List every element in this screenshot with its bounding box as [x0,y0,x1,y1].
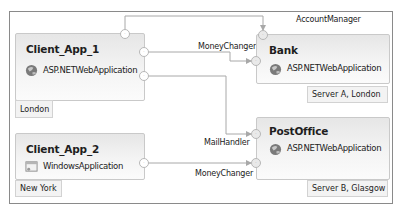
port-postoffice-moneychanger[interactable]: · [251,158,261,168]
node-title: PostOffice [269,125,328,137]
node-postoffice[interactable]: PostOffice ASP.NETWebApplication [256,117,390,180]
node-title: Bank [269,44,298,56]
node-title: Client_App_1 [26,43,99,55]
node-type: ASP.NETWebApplication [287,63,381,73]
edge-accountmanager [125,16,263,34]
globe-icon [269,143,282,156]
port-client-app-1-mailhandler[interactable]: · [139,71,149,81]
edge-label-mailhandler[interactable]: MailHandler [204,138,250,147]
node-client-app-2[interactable]: Client_App_2 WindowsApplication [15,133,145,180]
node-bank[interactable]: Bank ASP.NETWebApplication [256,34,390,84]
globe-icon [25,64,38,77]
location-tag-server-b: Server B, Glasgow [307,180,388,197]
node-type: ASP.NETWebApplication [287,143,381,153]
node-type: WindowsApplication [43,161,123,171]
globe-icon [269,63,282,76]
port-bank-moneychanger[interactable]: · [251,56,261,66]
port-postoffice-mailhandler[interactable]: · [251,129,261,139]
port-bank-accountmanager[interactable]: · [258,30,268,40]
port-client-app-1-accountmanager[interactable]: · [120,29,130,39]
location-tag-server-a: Server A, London [307,86,388,103]
node-title: Client_App_2 [26,143,99,155]
port-client-app-2-moneychanger[interactable]: · [139,158,149,168]
node-client-app-1[interactable]: Client_App_1 ASP.NETWebApplication [15,33,145,101]
location-tag-london: London [15,100,53,118]
edge-mailhandler [148,76,251,134]
node-type: ASP.NETWebApplication [43,65,137,75]
window-app-icon [25,160,38,173]
port-client-app-1-moneychanger[interactable]: · [139,47,149,57]
edge-label-moneychanger-1[interactable]: MoneyChanger [198,42,256,51]
edge-moneychanger-1 [148,52,251,61]
location-tag-new-york: New York [15,180,62,197]
edge-label-accountmanager[interactable]: AccountManager [296,15,361,24]
edge-label-moneychanger-2[interactable]: MoneyChanger [195,169,253,178]
